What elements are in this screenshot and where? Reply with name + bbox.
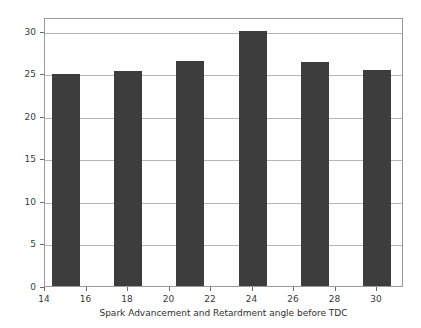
- x-tick-label-22: 22: [195, 294, 225, 304]
- x-axis-title: Spark Advancement and Retardment angle b…: [44, 308, 403, 319]
- bar: [52, 74, 80, 286]
- x-tick-mark-14: [44, 287, 45, 291]
- x-tick-label-18: 18: [112, 294, 142, 304]
- x-tick-label-14: 14: [29, 294, 59, 304]
- gridline-y-25: [45, 75, 402, 76]
- x-tick-mark-24: [252, 287, 253, 291]
- gridline-y-15: [45, 160, 402, 161]
- x-tick-label-30: 30: [361, 294, 391, 304]
- y-tick-mark-25: [40, 74, 44, 75]
- bar-chart-figure: 051015202530 141618202224262830 Spark Ad…: [0, 0, 421, 328]
- x-tick-mark-22: [210, 287, 211, 291]
- x-tick-label-28: 28: [320, 294, 350, 304]
- x-tick-mark-20: [169, 287, 170, 291]
- y-tick-label-30: 30: [0, 28, 36, 37]
- x-tick-mark-28: [335, 287, 336, 291]
- x-tick-mark-30: [376, 287, 377, 291]
- y-tick-mark-10: [40, 202, 44, 203]
- y-tick-label-20: 20: [0, 113, 36, 122]
- bar: [301, 62, 329, 286]
- x-tick-label-26: 26: [278, 294, 308, 304]
- y-tick-label-15: 15: [0, 155, 36, 164]
- y-tick-label-25: 25: [0, 70, 36, 79]
- x-tick-label-20: 20: [154, 294, 184, 304]
- y-tick-mark-20: [40, 117, 44, 118]
- gridline-y-10: [45, 203, 402, 204]
- x-tick-mark-16: [86, 287, 87, 291]
- x-tick-mark-26: [293, 287, 294, 291]
- gridline-y-30: [45, 33, 402, 34]
- y-tick-label-10: 10: [0, 198, 36, 207]
- y-tick-mark-5: [40, 244, 44, 245]
- bar: [176, 61, 204, 286]
- bar: [239, 31, 267, 286]
- x-tick-mark-18: [127, 287, 128, 291]
- x-tick-label-24: 24: [237, 294, 267, 304]
- bar: [363, 70, 391, 286]
- y-tick-mark-30: [40, 32, 44, 33]
- plot-area: [44, 18, 403, 287]
- y-tick-label-5: 5: [0, 240, 36, 249]
- gridline-y-20: [45, 118, 402, 119]
- x-tick-label-16: 16: [71, 294, 101, 304]
- y-tick-mark-15: [40, 159, 44, 160]
- y-tick-label-0: 0: [0, 283, 36, 292]
- bar: [114, 71, 142, 286]
- gridline-y-5: [45, 245, 402, 246]
